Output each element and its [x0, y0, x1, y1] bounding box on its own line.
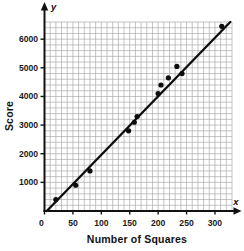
x-axis-arrowhead: [234, 207, 242, 214]
data-point: [73, 183, 78, 188]
x-tick-label: 50: [68, 218, 78, 228]
x-axis-letter: x: [232, 196, 239, 207]
x-tick-label: 300: [208, 218, 223, 228]
data-point: [179, 71, 184, 76]
y-tick-label: 5000: [19, 63, 38, 73]
x-tick-label: 0: [39, 218, 44, 228]
data-point: [87, 168, 92, 173]
x-axis-title: Number of Squares: [0, 233, 244, 245]
data-point: [174, 64, 179, 69]
data-point: [135, 114, 140, 119]
x-tick-label: 100: [94, 218, 109, 228]
data-point: [156, 91, 161, 96]
data-point: [126, 128, 131, 133]
y-tick-label: 2000: [19, 149, 38, 159]
data-point: [166, 75, 171, 80]
x-tick-label: 200: [151, 218, 166, 228]
data-point: [132, 120, 137, 125]
x-tick-label: 150: [123, 218, 138, 228]
y-tick-label: 4000: [19, 91, 38, 101]
data-point: [158, 82, 163, 87]
data-point: [219, 24, 224, 29]
y-tick-label: 3000: [19, 120, 38, 130]
y-axis-arrowhead: [41, 2, 48, 11]
y-tick-label: 6000: [19, 34, 38, 44]
chart-canvas: 0501001502002503001000200030004000500060…: [0, 0, 244, 251]
scatter-chart: 0501001502002503001000200030004000500060…: [0, 0, 244, 251]
x-tick-label: 250: [179, 218, 194, 228]
y-axis-title: Score: [3, 61, 15, 171]
data-point: [53, 197, 58, 202]
y-axis-letter: y: [50, 1, 57, 12]
y-tick-label: 1000: [19, 177, 38, 187]
